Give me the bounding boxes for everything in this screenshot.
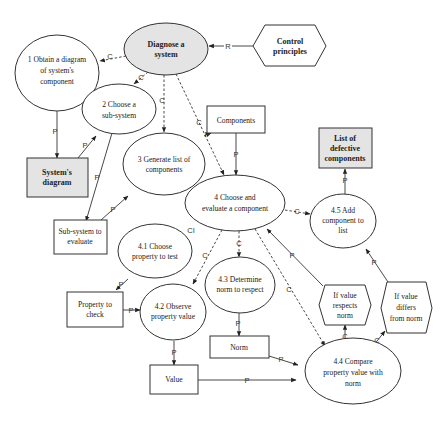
node-components: Components: [207, 106, 265, 133]
svg-text:check: check: [86, 310, 104, 319]
svg-text:4.3 Determine: 4.3 Determine: [218, 275, 262, 284]
svg-text:2 Choose a: 2 Choose a: [102, 100, 136, 109]
svg-text:of system's: of system's: [40, 66, 74, 75]
edge-label-p: P: [52, 127, 57, 136]
edge-label-p: P: [244, 376, 249, 385]
svg-text:sub-system: sub-system: [102, 111, 136, 120]
edge-label-p: P: [94, 173, 99, 182]
edge-diagnose-obtain: [100, 56, 126, 61]
edge-label-c: C: [159, 96, 165, 105]
node-norm: Norm: [210, 336, 269, 358]
node-choose-subsystem: 2 Choose a sub-system: [82, 84, 156, 134]
edge-label-r: R: [225, 42, 231, 51]
svg-text:4.2 Observe: 4.2 Observe: [155, 302, 192, 311]
svg-text:list: list: [338, 226, 348, 235]
edge-label-c: C: [107, 52, 113, 61]
node-control-principles: Control principles: [253, 25, 326, 66]
edge-label-c: C: [286, 285, 292, 294]
edge-label-c: C: [196, 118, 202, 127]
svg-text:evaluate: evaluate: [67, 237, 93, 246]
node-determine-norm: 4.3 Determine norm to respect: [205, 257, 275, 313]
node-defective-list: List of defective components: [319, 128, 372, 168]
svg-text:Diagnose a: Diagnose a: [147, 40, 184, 49]
edge-label-p: P: [235, 319, 240, 328]
node-add-component: 4.5 Add component to list: [310, 194, 376, 248]
svg-text:respects: respects: [333, 301, 358, 310]
edge-label-c: C: [236, 239, 242, 248]
svg-text:component to: component to: [322, 216, 364, 225]
edge-label-c: C: [294, 207, 300, 216]
edge-respects-chooseeval: [267, 229, 323, 286]
node-compare-value: 4.4 Compare property value with norm: [305, 338, 401, 404]
svg-text:List of: List of: [334, 134, 356, 143]
node-observe-property: 4.2 Observe property value: [140, 284, 206, 340]
svg-text:norm to respect: norm to respect: [216, 285, 264, 294]
svg-text:If value: If value: [394, 292, 418, 301]
svg-text:4 Choose and: 4 Choose and: [214, 193, 256, 202]
svg-text:defective: defective: [330, 144, 361, 153]
svg-text:evaluate a component: evaluate a component: [202, 204, 269, 213]
edge-label-p: P: [233, 150, 238, 159]
edge-label-c: C: [138, 73, 144, 82]
svg-text:component: component: [40, 77, 75, 86]
svg-text:Sub-system to: Sub-system to: [58, 227, 101, 236]
edge-label-p: P: [82, 141, 87, 150]
svg-text:Control: Control: [277, 37, 304, 46]
edge-label-p: P: [278, 355, 283, 364]
edge-label-p: P: [110, 205, 115, 214]
edge-label-p: P: [128, 306, 133, 315]
svg-text:4.5 Add: 4.5 Add: [331, 206, 355, 215]
node-choose-property: 4.1 Choose property to test: [118, 224, 192, 278]
edge-label-p: P: [289, 251, 294, 260]
svg-text:Value: Value: [165, 375, 183, 384]
process-diagram: R C C C C P P P P P P C P C C C P P P P …: [0, 0, 447, 429]
svg-text:System's: System's: [42, 168, 72, 177]
edge-label-p: P: [371, 258, 376, 267]
svg-text:property to test: property to test: [132, 252, 179, 261]
svg-text:principles: principles: [273, 47, 307, 56]
svg-text:If value: If value: [333, 291, 357, 300]
svg-text:norm: norm: [345, 379, 361, 388]
svg-text:differs: differs: [396, 303, 416, 312]
svg-text:1 Obtain a diagram: 1 Obtain a diagram: [28, 55, 87, 64]
node-choose-evaluate: 4 Choose and evaluate a component: [185, 175, 285, 231]
svg-text:components: components: [325, 154, 366, 163]
svg-text:property value: property value: [151, 312, 196, 321]
svg-text:Property to: Property to: [78, 300, 112, 309]
svg-text:Norm: Norm: [230, 343, 248, 352]
svg-text:system: system: [154, 50, 177, 59]
node-diagnose-system: Diagnose a system: [124, 23, 208, 75]
edge-label-p: P: [171, 348, 176, 357]
edge-label-ci: CI: [187, 226, 195, 235]
svg-text:4.1 Choose: 4.1 Choose: [138, 242, 173, 251]
svg-text:diagram: diagram: [43, 178, 72, 187]
svg-text:components: components: [146, 165, 183, 174]
node-value: Value: [150, 365, 198, 394]
node-property-check: Property to check: [67, 292, 123, 327]
node-subsystem-evaluate: Sub-system to evaluate: [54, 220, 107, 254]
svg-text:Components: Components: [217, 116, 255, 125]
node-systems-diagram: System's diagram: [27, 158, 88, 197]
svg-text:property value with: property value with: [323, 368, 383, 377]
edge-label-p: P: [118, 280, 123, 289]
edge-label-p: P: [342, 176, 347, 185]
edge-differs-add: [366, 249, 388, 282]
svg-text:3 Generate list of: 3 Generate list of: [138, 155, 191, 164]
svg-text:4.4 Compare: 4.4 Compare: [333, 357, 373, 366]
svg-text:from norm: from norm: [390, 314, 423, 323]
edge-label-c: C: [202, 251, 208, 260]
node-value-differs-norm: If value differs from norm: [381, 282, 432, 333]
node-generate-list: 3 Generate list of components: [123, 133, 205, 195]
svg-text:norm: norm: [337, 311, 353, 320]
node-value-respects-norm: If value respects norm: [319, 285, 371, 325]
